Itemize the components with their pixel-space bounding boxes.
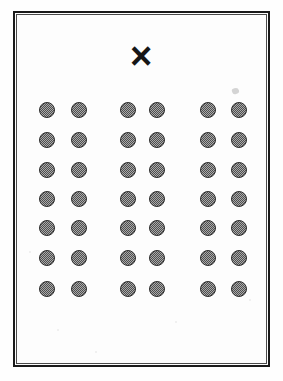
grid-dot[interactable] xyxy=(149,250,165,266)
grid-dot[interactable] xyxy=(71,191,87,207)
grid-dot[interactable] xyxy=(149,132,165,148)
grid-dot[interactable] xyxy=(71,102,87,118)
grid-dot[interactable] xyxy=(120,191,136,207)
grid-dot[interactable] xyxy=(231,162,247,178)
grid-dot[interactable] xyxy=(71,220,87,236)
x-mark[interactable]: × xyxy=(120,36,162,76)
grid-dot[interactable] xyxy=(149,281,165,297)
grid-dot[interactable] xyxy=(39,162,55,178)
grid-dot[interactable] xyxy=(200,220,216,236)
grid-dot[interactable] xyxy=(149,191,165,207)
grid-dot[interactable] xyxy=(120,132,136,148)
grid-dot[interactable] xyxy=(120,281,136,297)
grid-dot[interactable] xyxy=(231,220,247,236)
grid-dot[interactable] xyxy=(71,250,87,266)
grid-dot[interactable] xyxy=(120,162,136,178)
grid-dot[interactable] xyxy=(39,250,55,266)
grid-dot[interactable] xyxy=(200,281,216,297)
grid-dot[interactable] xyxy=(120,220,136,236)
grid-dot[interactable] xyxy=(39,220,55,236)
grid-dot[interactable] xyxy=(120,250,136,266)
grid-dot[interactable] xyxy=(39,191,55,207)
grid-dot[interactable] xyxy=(231,132,247,148)
grid-dot[interactable] xyxy=(39,281,55,297)
grid-dot[interactable] xyxy=(149,220,165,236)
paper-speckle xyxy=(249,299,251,301)
paper-speckle xyxy=(95,351,97,353)
grid-dot[interactable] xyxy=(200,132,216,148)
grid-dot[interactable] xyxy=(149,162,165,178)
grid-dot[interactable] xyxy=(231,250,247,266)
grid-dot[interactable] xyxy=(231,191,247,207)
grid-dot[interactable] xyxy=(200,102,216,118)
grid-dot[interactable] xyxy=(120,102,136,118)
grid-dot[interactable] xyxy=(71,162,87,178)
grid-dot[interactable] xyxy=(149,102,165,118)
grid-dot[interactable] xyxy=(231,281,247,297)
grid-dot[interactable] xyxy=(39,102,55,118)
grid-dot[interactable] xyxy=(231,102,247,118)
paper-speckle xyxy=(213,199,215,201)
grid-dot[interactable] xyxy=(71,132,87,148)
page-canvas: × xyxy=(0,0,283,381)
paper-speckle xyxy=(175,321,177,323)
grid-dot[interactable] xyxy=(200,162,216,178)
grid-dot[interactable] xyxy=(39,132,55,148)
grid-dot[interactable] xyxy=(71,281,87,297)
grid-dot[interactable] xyxy=(200,250,216,266)
